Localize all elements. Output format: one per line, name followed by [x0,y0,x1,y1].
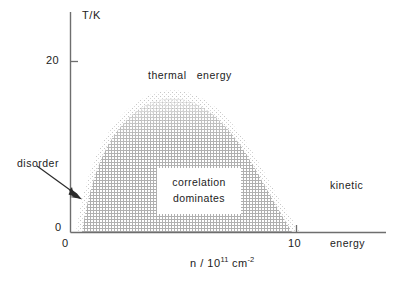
annotation-disorder: disorder [17,158,59,169]
annotation-kinetic-energy: kinetic energy [330,137,365,283]
annotation-thermal-energy: thermal energy [148,70,232,81]
y-tick-label-0: 0 [55,222,62,233]
x-tick-label-10: 10 [288,238,301,249]
x-axis-title: n / 1011 cm-2 [190,258,254,269]
correlation-line-1: correlation [163,174,235,190]
y-axis-title: T/K [82,10,101,21]
kinetic-energy-line-1: kinetic [330,176,365,195]
correlation-line-2: dominates [163,190,235,206]
y-tick-label-20: 20 [46,55,59,66]
kinetic-energy-line-2: energy [330,234,365,253]
x-tick-label-0: 0 [62,238,69,249]
phase-diagram-figure: T/K 20 0 0 10 n / 1011 cm-2 thermal ener… [0,0,404,283]
annotation-correlation-dominates: correlation dominates [157,168,241,214]
